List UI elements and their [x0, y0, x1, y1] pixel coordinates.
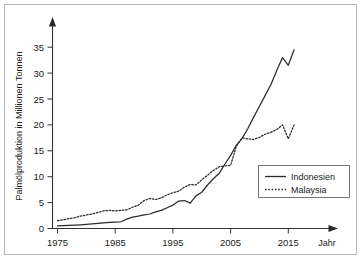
- y-axis-title: Palmölproduktion in Millionen Tonnen: [14, 52, 24, 201]
- x-tick-label: 2015: [278, 237, 299, 248]
- y-tick-labels: 0 5 10 15 20 25 30 35: [33, 42, 44, 234]
- y-tick-label: 20: [33, 119, 44, 130]
- legend-label-malaysia: Malaysia: [291, 185, 327, 195]
- x-axis: [53, 225, 339, 232]
- chart-legend: Indonesien Malaysia: [259, 166, 350, 198]
- y-tick-label: 30: [33, 68, 44, 79]
- x-tick-label: 1975: [47, 237, 68, 248]
- y-tick-marks: [48, 47, 53, 228]
- y-axis: [49, 17, 56, 229]
- legend-label-indonesien: Indonesien: [291, 172, 335, 182]
- y-tick-label: 0: [39, 223, 44, 234]
- y-tick-label: 5: [39, 197, 44, 208]
- y-tick-label: 15: [33, 145, 44, 156]
- line-chart: 0 5 10 15 20 25 30 35 1975 1985 1995 200…: [0, 0, 362, 260]
- x-tick-label: 1995: [162, 237, 183, 248]
- x-tick-label: 2005: [220, 237, 241, 248]
- y-tick-label: 10: [33, 171, 44, 182]
- y-tick-label: 35: [33, 42, 44, 53]
- x-axis-title: Jahr: [318, 238, 336, 248]
- chart-container: 0 5 10 15 20 25 30 35 1975 1985 1995 200…: [0, 0, 362, 260]
- x-tick-marks: [58, 229, 289, 234]
- y-axis-arrow-icon: [49, 17, 56, 27]
- x-tick-labels: 1975 1985 1995 2005 2015: [47, 237, 299, 248]
- y-tick-label: 25: [33, 94, 44, 105]
- x-axis-arrow-icon: [329, 225, 339, 232]
- x-tick-label: 1985: [105, 237, 126, 248]
